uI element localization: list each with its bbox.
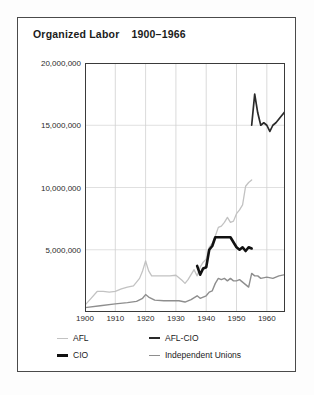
y-tick-label: 5,000,000 [45,245,81,254]
y-tick-label: 15,000,000 [41,121,81,130]
x-tick-label: 1940 [197,314,215,323]
figure-container: Organized Labor1900–1966 20,000,00015,00… [0,0,314,395]
legend-item-independent[interactable]: Independent Unions [149,350,241,360]
legend-label: Independent Unions [165,350,241,360]
plot-area [85,63,285,312]
legend-item-afl[interactable]: AFL [57,333,89,343]
title-range: 1900–1966 [131,28,185,40]
y-tick-label: 20,000,000 [41,59,81,68]
legend-item-afl-cio[interactable]: AFL-CIO [149,333,199,343]
legend-swatch-icon [57,354,68,357]
legend-swatch-icon [149,355,160,356]
x-tick-label: 1960 [258,314,276,323]
plot-border [85,63,285,312]
legend-swatch-icon [149,337,160,339]
x-tick-label: 1930 [167,314,185,323]
x-tick-label: 1920 [137,314,155,323]
chart-legend: AFLAFL-CIOCIOIndependent Unions [57,333,272,367]
x-tick-label: 1950 [228,314,246,323]
x-tick-label: 1910 [106,314,124,323]
x-tick-label: 1900 [76,314,94,323]
legend-item-cio[interactable]: CIO [57,350,88,360]
legend-label: CIO [73,350,88,360]
legend-swatch-icon [57,338,68,339]
y-tick-label: 10,000,000 [41,183,81,192]
legend-label: AFL [73,333,89,343]
legend-label: AFL-CIO [165,333,199,343]
